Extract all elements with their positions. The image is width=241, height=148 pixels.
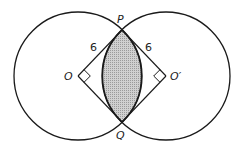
right-angle-marker-O-prime xyxy=(154,70,160,83)
label-O-prime: O′ xyxy=(170,70,182,83)
two-circles-diagram: P Q O O′ 6 6 xyxy=(0,0,241,148)
label-radius-right: 6 xyxy=(145,41,152,54)
label-radius-left: 6 xyxy=(90,41,97,54)
right-angle-marker-O xyxy=(84,70,90,83)
label-Q: Q xyxy=(116,129,125,142)
label-P: P xyxy=(117,13,124,26)
label-O: O xyxy=(64,70,73,83)
